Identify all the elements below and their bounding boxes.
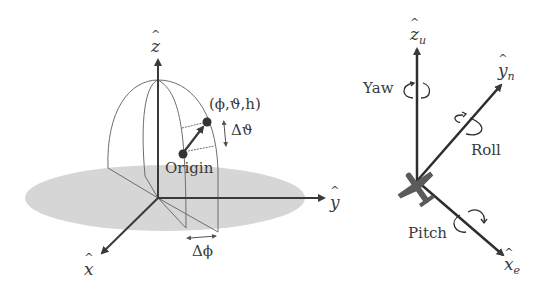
z-symbol: z [151,38,160,55]
origin-point [179,150,188,159]
z-axis-label: z [151,38,160,55]
pitch-rotation-icon [454,210,484,232]
yn-axis [417,85,501,181]
zu-subscript: u [419,34,426,47]
x-symbol: x [84,261,94,278]
diagram-stage: z y x (ϕ,ϑ,h) Origin Δϑ Δϕ zu yn xe Yaw … [0,0,549,294]
y-symbol: y [330,194,340,211]
delta-theta-arrow [224,124,226,146]
y-axis-label: y [330,194,340,211]
delta-phi-label: Δϕ [192,244,213,259]
xe-symbol: x [504,256,514,273]
point-coordinates-label: (ϕ,ϑ,h) [209,97,261,112]
yn-axis-label: yn [498,62,515,79]
target-point [203,118,212,127]
roll-label: Roll [471,143,501,158]
zu-symbol: z [410,26,419,43]
delta-phi-arrow [190,236,216,238]
xe-subscript: e [514,264,521,277]
origin-label: Origin [165,161,213,176]
diagram-graphics [0,0,549,294]
xe-axis-label: xe [504,256,520,273]
xe-axis [417,181,503,255]
zu-axis-label: zu [410,26,426,43]
delta-theta-label: Δϑ [231,123,253,138]
yaw-label: Yaw [363,81,394,96]
yn-subscript: n [508,70,515,83]
pitch-label: Pitch [408,226,447,241]
x-axis-label: x [84,261,94,278]
yn-symbol: y [498,62,508,79]
